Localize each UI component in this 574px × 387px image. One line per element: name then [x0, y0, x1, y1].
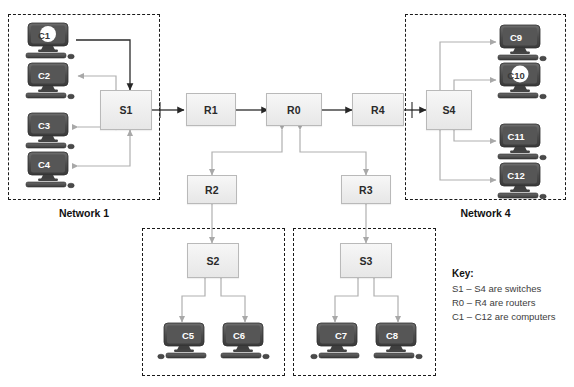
key-line-switches: S1 – S4 are switches — [452, 282, 572, 296]
switch-s1[interactable]: S1 — [100, 90, 152, 130]
computer-c6[interactable]: C6 — [219, 322, 271, 362]
key-legend: Key: S1 – S4 are switches R0 – R4 are ro… — [452, 268, 572, 324]
computer-c8[interactable]: C8 — [372, 322, 424, 362]
key-title: Key: — [452, 268, 572, 279]
router-r0[interactable]: R0 — [266, 93, 322, 126]
computer-c11[interactable]: C11 — [496, 123, 548, 163]
computer-c1[interactable]: C1 — [24, 22, 76, 62]
switch-s4[interactable]: S4 — [426, 90, 472, 130]
switch-s3[interactable]: S3 — [340, 243, 392, 278]
key-line-computers: C1 – C12 are computers — [452, 310, 572, 324]
router-r2[interactable]: R2 — [187, 175, 237, 204]
network-label-1: Network 1 — [8, 207, 160, 219]
wire-r0-to-r3 — [300, 130, 366, 175]
computer-c5[interactable]: C5 — [156, 322, 208, 362]
wire-r0-to-r2 — [212, 130, 282, 175]
key-line-routers: R0 – R4 are routers — [452, 296, 572, 310]
router-r1[interactable]: R1 — [186, 93, 236, 126]
network-label-4: Network 4 — [405, 207, 566, 219]
computer-c10[interactable]: C10 — [496, 62, 548, 102]
computer-c12[interactable]: C12 — [496, 162, 548, 202]
switch-s2[interactable]: S2 — [187, 243, 239, 278]
computer-c4[interactable]: C4 — [24, 151, 76, 191]
computer-c3[interactable]: C3 — [24, 112, 76, 152]
computer-c2[interactable]: C2 — [24, 62, 76, 102]
computer-c9[interactable]: C9 — [496, 24, 548, 64]
computer-c7[interactable]: C7 — [309, 322, 361, 362]
network-diagram-canvas: Network 1 Network 4 — [0, 0, 574, 387]
router-r3[interactable]: R3 — [341, 175, 391, 204]
router-r4[interactable]: R4 — [352, 93, 404, 126]
